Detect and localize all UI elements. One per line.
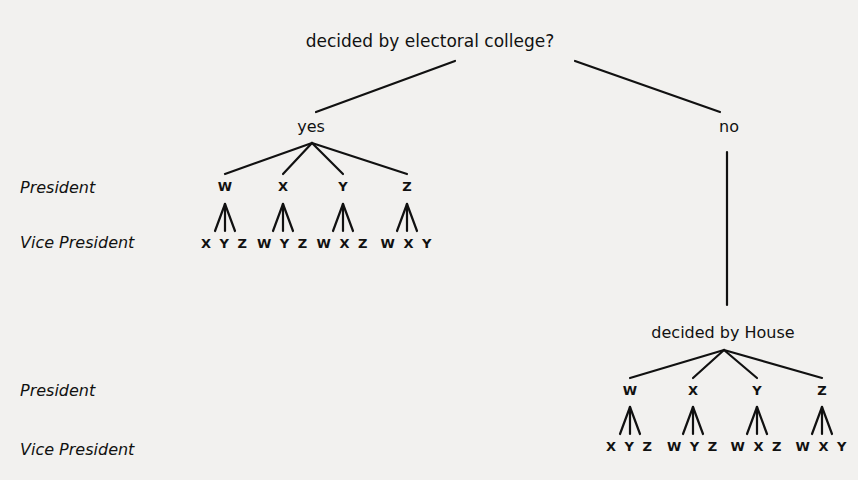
- branch-yes-label: yes: [297, 117, 325, 136]
- president-candidate-node: Z: [402, 179, 411, 194]
- vice-president-edge: [397, 204, 407, 231]
- president-candidate-node: X: [688, 383, 698, 398]
- vice-president-edge: [283, 204, 293, 231]
- row-label-president-top: President: [20, 178, 96, 197]
- game-tree-diagram: decided by electoral college? yes no dec…: [0, 0, 858, 480]
- vice-president-options: W X Z: [317, 236, 370, 251]
- vice-president-edge: [225, 204, 235, 231]
- vice-president-edge: [343, 204, 353, 231]
- president-candidate-node: Y: [751, 383, 762, 398]
- president-candidate-node: Z: [817, 383, 826, 398]
- tree-edges: [316, 61, 727, 305]
- vice-president-options: W Y Z: [257, 236, 309, 251]
- vice-president-edge: [273, 204, 283, 231]
- vice-president-edge: [630, 407, 640, 434]
- house-subtree: WX Y ZXW Y ZYW X ZZW X Y: [606, 350, 848, 454]
- vice-president-options: W X Y: [796, 439, 849, 454]
- house-decision-node: decided by House: [651, 323, 794, 342]
- row-label-vice-president-top: Vice President: [20, 233, 135, 252]
- president-candidate-node: W: [623, 383, 637, 398]
- root-question-node: decided by electoral college?: [306, 31, 555, 51]
- vice-president-options: W X Y: [381, 236, 434, 251]
- vice-president-options: W Y Z: [667, 439, 719, 454]
- vice-president-edge: [812, 407, 822, 434]
- president-candidate-node: W: [218, 179, 232, 194]
- row-label-vice-president-bottom: Vice President: [20, 440, 135, 459]
- president-candidate-node: X: [278, 179, 288, 194]
- branch-no-label: no: [719, 117, 739, 136]
- candidate-subtrees: WX Y ZXW Y ZYW X ZZW X YWX Y ZXW Y ZYW X…: [201, 143, 848, 454]
- tree-edge: [575, 61, 720, 112]
- vice-president-edge: [333, 204, 343, 231]
- row-label-president-bottom: President: [20, 381, 96, 400]
- president-candidate-node: Y: [337, 179, 348, 194]
- president-edge: [724, 350, 822, 378]
- vice-president-edge: [683, 407, 693, 434]
- vice-president-edge: [215, 204, 225, 231]
- vice-president-edge: [747, 407, 757, 434]
- vice-president-edge: [620, 407, 630, 434]
- tree-canvas: decided by electoral college? yes no dec…: [0, 0, 858, 480]
- vice-president-options: X Y Z: [201, 236, 249, 251]
- vice-president-edge: [693, 407, 703, 434]
- vice-president-edge: [822, 407, 832, 434]
- vice-president-edge: [407, 204, 417, 231]
- vice-president-edge: [757, 407, 767, 434]
- tree-edge: [316, 61, 455, 112]
- electoral-college-subtree: WX Y ZXW Y ZYW X ZZW X Y: [201, 143, 433, 251]
- vice-president-options: W X Z: [731, 439, 784, 454]
- vice-president-options: X Y Z: [606, 439, 654, 454]
